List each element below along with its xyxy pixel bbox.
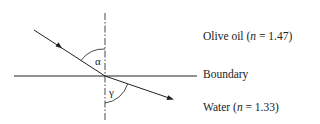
- refracted-ray: [105, 76, 172, 99]
- olive-oil-label: Olive oil (n = 1.47): [203, 31, 292, 43]
- refracted-arrow-icon: [167, 95, 175, 100]
- incident-ray: [34, 30, 105, 76]
- water-label: Water (n = 1.33): [203, 102, 279, 114]
- alpha-label: α: [95, 56, 101, 67]
- gamma-label: γ: [109, 87, 114, 98]
- boundary-label: Boundary: [203, 69, 248, 81]
- alpha-arc: [81, 49, 105, 61]
- incident-arrow-icon: [56, 42, 63, 48]
